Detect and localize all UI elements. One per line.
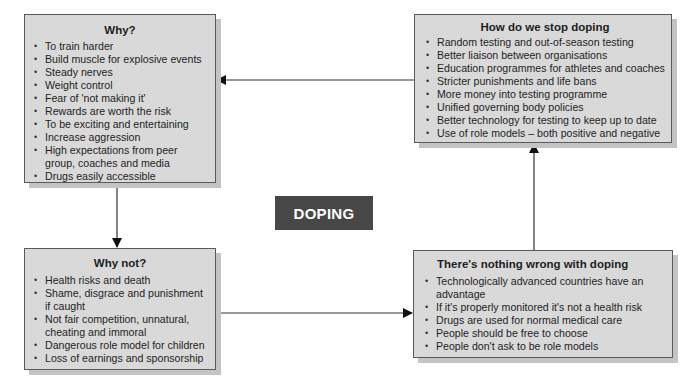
stop-title: How do we stop doping xyxy=(423,21,667,33)
nothing-title: There's nothing wrong with doping xyxy=(422,258,668,270)
list-item: Build muscle for explosive events xyxy=(31,53,209,66)
nothing-list: Technologically advanced countries have … xyxy=(422,275,668,353)
whynot-list: Health risks and deathShame, disgrace an… xyxy=(31,274,209,365)
list-item: Drugs easily accessible xyxy=(31,170,209,183)
list-item: High expectations from peer group, coach… xyxy=(31,144,209,170)
list-item: Stricter punishments and life bans xyxy=(423,75,667,88)
list-item: Better liaison between organisations xyxy=(423,49,667,62)
list-item: Random testing and out-of-season testing xyxy=(423,36,667,49)
list-item: Rewards are worth the risk xyxy=(31,105,209,118)
stop-list: Random testing and out-of-season testing… xyxy=(423,36,667,140)
why-list: To train harderBuild muscle for explosiv… xyxy=(31,40,209,183)
list-item: Fear of 'not making it' xyxy=(31,92,209,105)
nothing-wrong-box: There's nothing wrong with doping Techno… xyxy=(413,250,673,358)
list-item: Increase aggression xyxy=(31,131,209,144)
doping-center-label: DOPING xyxy=(275,196,373,230)
list-item: More money into testing programme xyxy=(423,88,667,101)
list-item: Technologically advanced countries have … xyxy=(422,275,668,301)
list-item: If it's properly monitored it's not a he… xyxy=(422,301,668,314)
list-item: Loss of earnings and sponsorship xyxy=(31,352,209,365)
list-item: Not fair competition, unnatural, cheatin… xyxy=(31,313,209,339)
list-item: Use of role models – both positive and n… xyxy=(423,127,667,140)
list-item: To be exciting and entertaining xyxy=(31,118,209,131)
list-item: Steady nerves xyxy=(31,66,209,79)
list-item: People don't ask to be role models xyxy=(422,340,668,353)
list-item: Drugs are used for normal medical care xyxy=(422,314,668,327)
why-title: Why? xyxy=(31,24,209,36)
list-item: Education programmes for athletes and co… xyxy=(423,62,667,75)
list-item: People should be free to choose xyxy=(422,327,668,340)
list-item: Weight control xyxy=(31,79,209,92)
list-item: To train harder xyxy=(31,40,209,53)
whynot-title: Why not? xyxy=(31,257,209,269)
how-to-stop-box: How do we stop doping Random testing and… xyxy=(414,14,672,143)
list-item: Dangerous role model for children xyxy=(31,339,209,352)
list-item: Unified governing body policies xyxy=(423,101,667,114)
list-item: Shame, disgrace and punishment if caught xyxy=(31,287,209,313)
list-item: Better technology for testing to keep up… xyxy=(423,114,667,127)
list-item: Health risks and death xyxy=(31,274,209,287)
why-box: Why? To train harderBuild muscle for exp… xyxy=(24,14,216,183)
why-not-box: Why not? Health risks and deathShame, di… xyxy=(24,248,216,370)
